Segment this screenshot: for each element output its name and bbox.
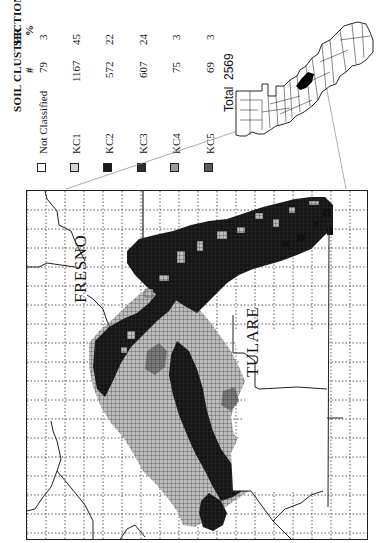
map-label-fresno: FRESNO (71, 235, 91, 303)
connector-line (325, 80, 346, 189)
main-map: FRESNO TULARE (26, 190, 368, 540)
map-label-tulare: TULARE (243, 307, 263, 377)
